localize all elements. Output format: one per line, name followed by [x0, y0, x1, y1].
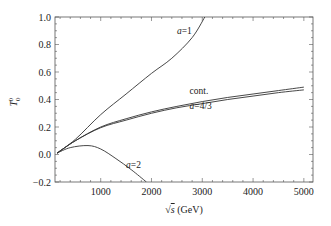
curve-labels: a=1cont.a=4/3a=2: [126, 26, 212, 171]
x-tick-label: 2000: [141, 186, 161, 197]
x-axis-label: √s (GeV): [165, 204, 202, 216]
curve-label: a=2: [126, 160, 141, 170]
x-tick-label: 1000: [91, 186, 111, 197]
axis-ticks: 10002000300040005000−0.20.00.20.40.60.81…: [33, 12, 314, 198]
curve-cont-: [57, 87, 304, 153]
y-tick-label: −0.2: [33, 177, 51, 188]
curve-a-1: [57, 17, 205, 153]
y-tick-label: 0.4: [39, 94, 52, 105]
y-tick-label: 0.8: [39, 39, 52, 50]
curve-label: a=1: [177, 26, 192, 36]
svg-text:T00: T00: [7, 97, 22, 107]
y-tick-label: 1.0: [39, 12, 52, 23]
plot-area: [55, 17, 313, 182]
plot-frame: [55, 17, 313, 182]
chart-svg: 10002000300040005000−0.20.00.20.40.60.81…: [0, 0, 331, 226]
x-tick-label: 5000: [294, 186, 314, 197]
y-tick-label: 0.6: [39, 67, 52, 78]
svg-text:√s (GeV): √s (GeV): [165, 204, 202, 216]
curve-label: cont.: [190, 86, 209, 96]
x-tick-label: 3000: [192, 186, 212, 197]
y-tick-label: 0.2: [39, 122, 52, 133]
y-tick-label: 0.0: [39, 149, 52, 160]
chart: 10002000300040005000−0.20.00.20.40.60.81…: [0, 0, 331, 226]
curve-label: a=4/3: [190, 101, 212, 111]
y-axis-label: T00: [7, 97, 22, 107]
x-tick-label: 4000: [243, 186, 263, 197]
curves: [57, 17, 304, 182]
